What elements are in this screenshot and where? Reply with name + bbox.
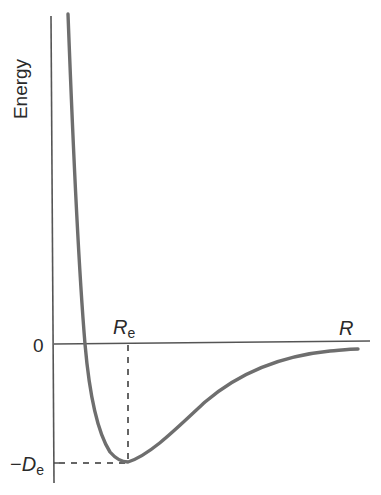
zero-label: 0	[33, 335, 44, 356]
de-label-main: D	[22, 453, 36, 475]
de-label-prefix: −	[10, 453, 22, 475]
x-axis-zero-line	[54, 341, 370, 344]
re-label: Re	[113, 316, 135, 341]
potential-energy-diagram: Energy 0 R Re −De	[0, 0, 381, 495]
re-label-main: R	[113, 316, 127, 338]
potential-energy-curve	[68, 14, 358, 462]
y-axis	[51, 16, 54, 483]
y-axis-label: Energy	[10, 58, 31, 119]
re-label-sub: e	[127, 325, 135, 341]
de-label-sub: e	[36, 462, 44, 478]
x-axis-label: R	[339, 317, 353, 339]
de-label: −De	[10, 453, 44, 478]
